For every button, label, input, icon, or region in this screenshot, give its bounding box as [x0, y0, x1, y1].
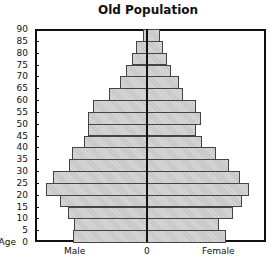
bar-male-35-40 [72, 147, 148, 160]
y-tick-label: 55 [6, 107, 28, 117]
bar-female-50-55 [147, 112, 201, 125]
y-tick-label: 10 [6, 213, 28, 223]
bar-female-15-20 [147, 195, 242, 208]
bar-female-30-35 [147, 159, 229, 172]
y-tick-label: 75 [6, 60, 28, 70]
bar-female-75-80 [147, 53, 167, 66]
bar-female-25-30 [147, 171, 240, 184]
y-tick-mark [35, 207, 39, 208]
x-label-female: Female [202, 246, 235, 256]
bar-male-5-10 [74, 218, 148, 231]
center-axis-line [146, 29, 148, 242]
y-tick-mark [35, 230, 39, 231]
bar-male-65-70 [120, 76, 148, 89]
y-tick-label: 60 [6, 95, 28, 105]
bar-female-55-60 [147, 100, 196, 113]
x-label-male: Male [64, 246, 85, 256]
chart-title: Old Population [0, 3, 270, 17]
bar-female-85-90 [147, 29, 160, 42]
bar-female-5-10 [147, 218, 219, 231]
y-tick-label: 15 [6, 202, 28, 212]
y-tick-mark [35, 65, 39, 66]
y-tick-mark [35, 53, 39, 54]
bar-male-60-65 [109, 88, 148, 101]
y-tick-mark [35, 124, 39, 125]
bar-male-55-60 [93, 100, 148, 113]
y-tick-mark [35, 218, 39, 219]
y-tick-label: 20 [6, 190, 28, 200]
y-tick-mark [35, 136, 39, 137]
bar-female-0-5 [147, 230, 226, 243]
bar-female-80-85 [147, 41, 163, 54]
bar-male-0-5 [73, 230, 148, 243]
y-tick-label: 85 [6, 36, 28, 46]
y-tick-mark [35, 183, 39, 184]
bar-female-70-75 [147, 65, 171, 78]
y-axis-label: Age [0, 237, 16, 247]
y-tick-mark [35, 195, 39, 196]
y-tick-label: 45 [6, 131, 28, 141]
y-tick-mark [35, 171, 39, 172]
y-tick-label: 50 [6, 119, 28, 129]
bar-male-30-35 [69, 159, 148, 172]
y-tick-mark [35, 112, 39, 113]
bar-male-45-50 [88, 124, 148, 137]
bar-male-40-45 [84, 136, 148, 149]
y-tick-label: 70 [6, 71, 28, 81]
bar-female-65-70 [147, 76, 179, 89]
bar-male-15-20 [60, 195, 148, 208]
y-tick-mark [35, 100, 39, 101]
y-tick-mark [35, 88, 39, 89]
bar-male-50-55 [88, 112, 148, 125]
y-tick-mark [35, 41, 39, 42]
y-tick-label: 90 [6, 24, 28, 34]
y-tick-label: 25 [6, 178, 28, 188]
y-tick-label: 30 [6, 166, 28, 176]
y-tick-mark [35, 159, 39, 160]
y-tick-label: 80 [6, 48, 28, 58]
y-tick-label: 65 [6, 83, 28, 93]
y-tick-mark [35, 76, 39, 77]
bar-female-10-15 [147, 207, 233, 220]
y-tick-label: 40 [6, 142, 28, 152]
y-tick-label: 5 [6, 225, 28, 235]
bar-male-70-75 [126, 65, 148, 78]
y-tick-label: 35 [6, 154, 28, 164]
y-tick-mark [35, 147, 39, 148]
bar-female-35-40 [147, 147, 216, 160]
bar-male-10-15 [68, 207, 148, 220]
bar-male-25-30 [53, 171, 148, 184]
bar-female-60-65 [147, 88, 183, 101]
bar-male-20-25 [46, 183, 148, 196]
bar-female-40-45 [147, 136, 202, 149]
x-label-zero: 0 [144, 246, 150, 256]
bar-female-45-50 [147, 124, 196, 137]
bar-female-20-25 [147, 183, 249, 196]
